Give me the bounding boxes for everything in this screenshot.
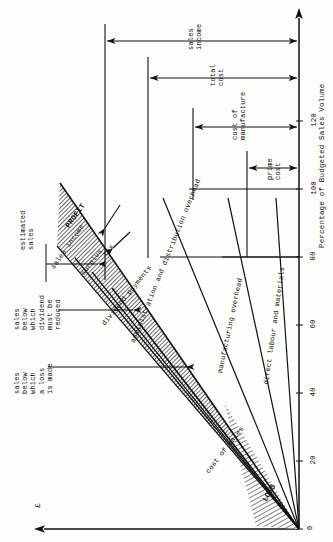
line-tax (75, 258, 299, 529)
loss-region (224, 402, 299, 529)
y-axis-arrowhead (34, 525, 45, 533)
chart-canvas (0, 0, 333, 542)
x-axis (295, 8, 303, 529)
x-tick-20: 20 (309, 455, 317, 464)
line-surplus (57, 246, 299, 529)
x-tick-60: 60 (309, 319, 317, 328)
x-tick-120: 120 (310, 113, 318, 127)
x-tick-100: 100 (310, 181, 318, 195)
measure-guides (105, 24, 299, 280)
x-tick-0: 0 (306, 526, 314, 531)
line-cost-of-sales (112, 288, 299, 529)
break-even-chart-figure: Percentage of Budgeted Sales Volume 0 20… (0, 0, 333, 542)
line-sales-income (60, 183, 299, 529)
x-tick-80: 80 (309, 251, 317, 260)
y-axis (34, 525, 299, 533)
line-direct-labour-materials (276, 198, 299, 529)
pointer-surplus-bands (105, 205, 130, 248)
x-axis-arrowhead (295, 8, 303, 19)
x-tick-40: 40 (309, 387, 317, 396)
